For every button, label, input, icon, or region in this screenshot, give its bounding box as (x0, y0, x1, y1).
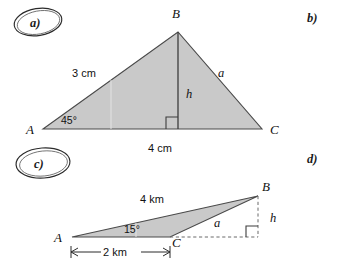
side-label-a-BC: a (218, 66, 224, 80)
side-label-a-AB: 3 cm (72, 67, 96, 79)
triangle-c-shape (72, 196, 258, 237)
figure-a-group: a) A B C 3 cm a 4 cm h 45° (12, 5, 279, 154)
angle-label-c-A: 15° (124, 223, 140, 235)
geometry-worksheet-page: a) A B C 3 cm a 4 cm h 45° b) (0, 0, 337, 266)
figures-canvas: a) A B C 3 cm a 4 cm h 45° b) (0, 0, 337, 266)
side-label-c-AB: 4 km (140, 193, 164, 205)
side-label-c-altitude: h (270, 211, 276, 225)
vertex-label-a-B: B (172, 6, 180, 21)
figure-label-c: c) (34, 157, 44, 171)
figure-label-a: a) (30, 16, 40, 30)
vertex-label-a-A: A (25, 122, 34, 137)
vertex-label-c-B: B (262, 179, 270, 194)
figure-c-group: c) A B C 4 km a h 15° (15, 146, 276, 260)
vertex-label-c-A: A (53, 230, 62, 245)
vertex-label-c-C: C (172, 235, 181, 250)
right-angle-icon-c (246, 226, 258, 237)
side-label-c-AC: 2 km (103, 246, 127, 258)
vertex-label-a-C: C (270, 122, 279, 137)
angle-label-a-A: 45° (61, 114, 77, 126)
side-label-c-CB: a (214, 216, 220, 230)
figure-label-d: d) (307, 152, 317, 166)
side-label-a-altitude: h (186, 87, 192, 101)
figure-label-b: b) (307, 11, 317, 25)
side-label-a-AC: 4 cm (148, 142, 172, 154)
